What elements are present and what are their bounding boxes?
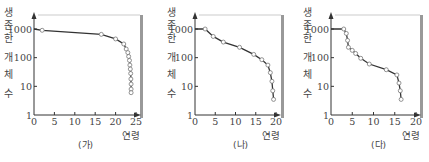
x-axis-label: 연령 [122,128,140,142]
x-tick-label: 10 [69,116,81,127]
y-tick-label: 100 [311,52,329,63]
y-tick-label: 1000 [305,24,329,35]
x-tick-label: 15 [89,116,101,127]
data-point-marker [354,51,358,55]
data-point-marker [398,89,402,93]
data-point-marker [399,97,403,101]
chart-panel-da: 생존한개체수100010010105101520연령(다) [286,0,429,162]
x-tick-label: 10 [229,116,241,127]
data-point-marker [129,91,133,95]
y-tick-label: 10 [20,81,32,92]
y-axis-arrow-icon [193,12,198,19]
data-point-marker [350,48,354,52]
data-point-marker [203,27,207,31]
data-point-marker [367,62,371,66]
data-point-marker [129,72,133,76]
panel-caption: (나) [233,138,248,151]
data-point-marker [342,27,346,31]
data-point-marker [359,56,363,60]
data-point-marker [272,97,276,101]
panel-edge-bar [420,15,423,118]
data-point-marker [114,37,118,41]
data-point-marker [128,63,132,67]
data-point-marker [346,45,350,49]
y-tick-label: 1000 [169,24,193,35]
x-tick-label: 10 [367,116,379,127]
survival-curve [195,29,274,99]
x-tick-label: 25 [130,116,142,127]
x-tick-label: 0 [31,116,37,127]
data-point-marker [266,63,270,67]
axes: 10001001010510152025 [8,12,142,127]
chart-panel-ga: 생존한개체수10001001010510152025연령(가) [0,0,143,162]
data-point-marker [99,32,103,36]
data-point-marker [346,38,350,42]
data-point-marker [397,81,401,85]
x-tick-label: 5 [349,116,355,127]
chart-panel-na: 생존한개체수100010010105101520연령(나) [143,0,286,162]
y-axis-arrow-icon [329,12,334,19]
data-point-marker [395,73,399,77]
x-tick-label: 20 [110,116,122,127]
x-tick-label: 20 [270,116,282,127]
data-point-marker [211,34,215,38]
data-point-marker [128,67,132,71]
x-axis-label: 연령 [402,128,420,142]
data-point-marker [127,58,131,62]
y-tick-label: 100 [14,52,32,63]
x-tick-label: 15 [250,116,262,127]
data-point-marker [260,58,264,62]
y-tick-label: 10 [317,81,329,92]
data-point-marker [268,71,272,75]
y-tick-label: 1000 [8,24,32,35]
x-tick-label: 0 [192,116,198,127]
x-tick-label: 5 [51,116,57,127]
data-point-marker [221,40,225,44]
x-tick-label: 0 [328,116,334,127]
panel-caption: (가) [78,138,93,151]
data-point-marker [384,68,388,72]
data-point-marker [129,82,133,86]
data-point-marker [252,52,256,56]
axes: 100010010105101520 [169,12,282,127]
x-tick-label: 15 [389,116,401,127]
data-point-marker [122,42,126,46]
data-point-marker [238,45,242,49]
survival-curve [331,29,401,99]
y-axis-arrow-icon [32,12,37,19]
y-tick-label: 100 [175,52,193,63]
y-tick-label: 10 [181,81,193,92]
x-tick-label: 20 [410,116,422,127]
data-point-marker [127,54,131,58]
data-point-marker [129,77,133,81]
data-point-marker [126,51,130,55]
x-axis-label: 연령 [262,128,280,142]
panel-edge-bar [281,15,284,118]
data-point-marker [271,89,275,93]
x-tick-label: 5 [212,116,218,127]
data-point-marker [40,28,44,32]
data-point-marker [344,31,348,35]
panel-caption: (다) [371,138,386,151]
axes: 100010010105101520 [305,12,422,127]
data-point-marker [270,79,274,83]
